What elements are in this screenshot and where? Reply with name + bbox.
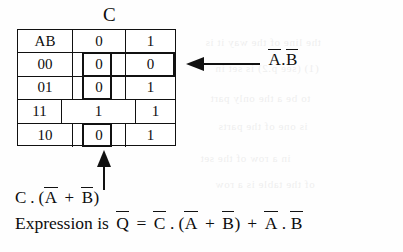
plus-operator: + — [205, 213, 215, 233]
row-spacer-mid — [114, 77, 125, 99]
b-bar-term: B — [286, 50, 298, 70]
header-cell-spacer-mid — [114, 30, 125, 52]
row-label-cell: 01 — [18, 77, 73, 99]
header-cell-c1: 1 — [125, 30, 175, 52]
annotation-label-c-and-a-bar-plus-b-bar: C.(A+B) — [15, 188, 99, 208]
header-cell-ab: AB — [18, 30, 73, 52]
close-paren: ) — [234, 213, 240, 233]
ghost-text-line: is one of the parts — [218, 120, 308, 132]
table-header-row: AB 0 1 — [18, 30, 175, 53]
expression-prefix: Expression is — [15, 213, 109, 233]
dot-operator: . — [282, 213, 286, 233]
row-label-cell: 10 — [18, 124, 73, 147]
a-bar-term: A — [268, 50, 281, 70]
value-cell-c0: 0 — [84, 53, 114, 75]
b-bar-term: B — [290, 212, 303, 234]
header-cell-c0: 0 — [84, 30, 114, 52]
plus-operator: + — [65, 188, 75, 207]
q-bar-term: Q — [116, 212, 130, 234]
b-bar-term: B — [81, 188, 93, 208]
value-cell-c1: 1 — [125, 124, 175, 147]
dot-operator: . — [170, 213, 174, 233]
column-variable-label: C — [103, 5, 116, 24]
final-expression: Expression isQ=C.(A+B)+A.B — [15, 212, 303, 234]
value-cell-c1: 1 — [125, 77, 175, 99]
karnaugh-map-table: AB 0 1 00 0 0 01 0 1 11 1 1 — [17, 29, 176, 146]
row-label-cell: 00 — [18, 53, 73, 75]
value-cell-c0: 0 — [84, 124, 114, 147]
ghost-text-line: in a row of the set — [200, 152, 291, 164]
table-row: 10 0 1 — [18, 124, 175, 147]
arrow-shaft — [103, 160, 106, 190]
b-bar-term: B — [222, 212, 235, 234]
figure-canvas: the line of the way it is (1) (see p.2) … — [0, 0, 403, 252]
header-cell-spacer-left — [73, 30, 84, 52]
a-bar-term: A — [264, 212, 278, 234]
ghost-text-line: the line of the way it is — [205, 36, 321, 48]
value-cell-c1: 1 — [135, 100, 175, 122]
annotation-arrow-left-pointing — [186, 56, 262, 72]
annotation-arrow-up-pointing — [95, 150, 113, 190]
row-spacer-left — [73, 53, 84, 75]
close-paren: ) — [93, 188, 99, 207]
ghost-text-line: to be a the only part — [210, 92, 310, 104]
ghost-text-line: of the table is a row — [215, 178, 315, 190]
table-row: 00 0 0 — [18, 53, 175, 76]
c-bar-term: C — [153, 212, 166, 234]
plus-operator: + — [247, 213, 257, 233]
value-cell-c1: 0 — [125, 53, 175, 75]
dot-operator: . — [30, 188, 34, 207]
value-cell-c0: 0 — [84, 77, 114, 99]
annotation-label-a-bar-b-bar: A.B — [268, 50, 298, 70]
table-row: 01 0 1 — [18, 77, 175, 100]
a-bar-term: A — [44, 188, 57, 208]
c-term: C — [15, 188, 26, 207]
table-row: 11 1 1 — [18, 100, 175, 123]
equals-operator: = — [136, 213, 146, 233]
row-spacer-mid — [114, 53, 125, 75]
row-spacer-mid — [114, 124, 125, 147]
a-bar-term: A — [184, 212, 198, 234]
arrow-shaft — [200, 63, 260, 65]
value-cell-merged: 1 — [62, 100, 135, 122]
row-spacer-left — [73, 77, 84, 99]
row-spacer-left — [73, 124, 84, 147]
row-label-cell: 11 — [18, 100, 62, 122]
